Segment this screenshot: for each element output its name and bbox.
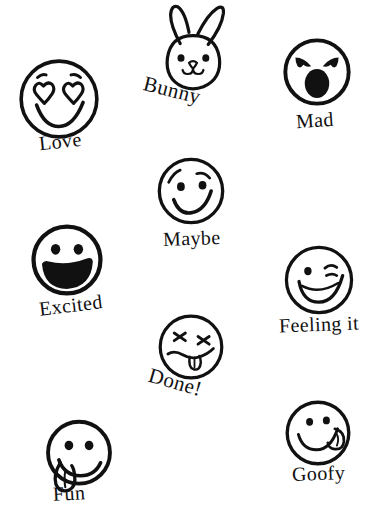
sticker-label-fun: Fun <box>52 482 85 507</box>
angry-shouting-face-icon <box>281 36 353 108</box>
sticker-sheet: Love Bunny Mad <box>0 0 373 519</box>
smirking-face-icon <box>155 155 227 227</box>
heart-eyes-smiley-icon <box>16 56 102 142</box>
sticker-maybe[interactable] <box>155 155 227 227</box>
licking-lips-face-icon <box>283 398 353 468</box>
sticker-goofy[interactable] <box>283 398 353 468</box>
grinning-open-mouth-face-icon <box>29 222 105 298</box>
sticker-mad[interactable] <box>281 36 353 108</box>
sticker-label-mad: Mad <box>295 109 334 135</box>
sticker-label-maybe: Maybe <box>163 227 221 252</box>
sticker-love[interactable] <box>16 56 102 142</box>
winking-face-icon <box>282 243 356 317</box>
sticker-label-love: Love <box>38 129 83 156</box>
sticker-label-goofy: Goofy <box>292 462 346 487</box>
sticker-feeling-it[interactable] <box>282 243 356 317</box>
sticker-excited[interactable] <box>29 222 105 298</box>
sticker-label-feeling-it: Feeling it <box>279 313 360 339</box>
